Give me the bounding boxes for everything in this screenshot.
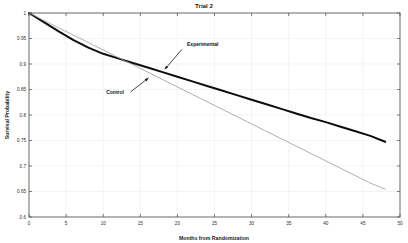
x-tick-label: 40 bbox=[323, 221, 329, 226]
x-tick-label: 25 bbox=[212, 221, 218, 226]
annotation-label-control: Control bbox=[106, 89, 124, 95]
x-tick-label: 30 bbox=[249, 221, 255, 226]
annotation-label-experimental: Experimental bbox=[187, 41, 219, 47]
x-tick-label: 50 bbox=[397, 221, 403, 226]
chart-title: Trial 2 bbox=[195, 2, 213, 9]
y-axis-title: Survival Probability bbox=[4, 91, 10, 140]
x-tick-label: 45 bbox=[360, 221, 366, 226]
y-tick-label: 0.85 bbox=[17, 87, 26, 92]
x-tick-label: 20 bbox=[175, 221, 181, 226]
y-tick-label: 0.7 bbox=[20, 164, 27, 169]
y-tick-label: 1 bbox=[23, 11, 26, 16]
y-tick-label: 0.8 bbox=[20, 113, 27, 118]
figure-background bbox=[0, 0, 408, 243]
x-tick-label: 5 bbox=[65, 221, 68, 226]
x-tick-label: 35 bbox=[286, 221, 292, 226]
y-tick-label: 0.75 bbox=[17, 138, 26, 143]
survival-curve-chart: 05101520253035404550 0.60.650.70.750.80.… bbox=[0, 0, 408, 243]
y-tick-label: 0.65 bbox=[17, 189, 26, 194]
x-tick-label: 15 bbox=[138, 221, 144, 226]
x-tick-label: 10 bbox=[101, 221, 107, 226]
x-axis-title: Months from Randomization bbox=[179, 235, 249, 241]
y-tick-label: 0.9 bbox=[20, 62, 27, 67]
y-tick-label: 0.95 bbox=[17, 36, 26, 41]
x-tick-label: 0 bbox=[28, 221, 31, 226]
chart-figure: 05101520253035404550 0.60.650.70.750.80.… bbox=[0, 0, 408, 243]
y-tick-label: 0.6 bbox=[20, 215, 27, 220]
